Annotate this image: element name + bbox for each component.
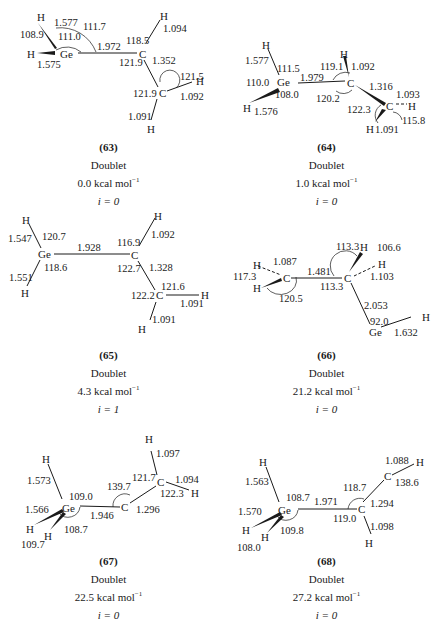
bond-length-label: 1.097	[156, 448, 180, 459]
atom-label: C	[386, 100, 393, 112]
angle-label: 119.1	[320, 61, 343, 72]
bond-length-label: 1.091	[128, 111, 152, 122]
angle-label: 108.9	[20, 29, 44, 40]
atom-label: H	[37, 11, 45, 23]
bond-length-label: 1.091	[375, 124, 399, 135]
angle-label: 120.7	[42, 231, 66, 242]
atom-label: Ge	[277, 76, 290, 88]
angle-label: 111.7	[83, 21, 106, 32]
bond-length-label: 1.092	[180, 91, 204, 102]
atom-label: H	[261, 531, 269, 543]
angle-label: 121.9	[119, 57, 143, 68]
imaginary-frequencies: i = 0	[0, 606, 217, 624]
atom-label: C	[344, 272, 351, 284]
angle-label: 121.9	[133, 88, 157, 99]
bond-length-label: 1.928	[77, 242, 101, 253]
atom-label: C	[121, 501, 128, 513]
angle-label: 122.7	[117, 263, 141, 274]
angle-label: 138.6	[395, 477, 419, 488]
atom-label: H	[422, 311, 430, 323]
bond-length-label: 1.088	[385, 455, 409, 466]
angle-label: 118.7	[343, 482, 366, 493]
atom-label: H	[365, 537, 373, 549]
atom-label: H	[360, 241, 368, 253]
atom-label: H	[262, 39, 270, 51]
bond-length-label: 1.566	[25, 504, 49, 515]
molecule-64-diagram: H Ge H H C C H H 1.577 1.576 1.979 1.092…	[218, 0, 435, 150]
bond-length-label: 1.091	[180, 298, 204, 309]
atom-label: H	[243, 102, 251, 114]
atom-label: H	[416, 456, 424, 468]
structure-64: H Ge H H C C H H 1.577 1.576 1.979 1.092…	[218, 0, 435, 205]
spin-state: Doublet	[0, 364, 217, 382]
atom-label: H	[366, 123, 374, 135]
atom-label: H	[147, 123, 155, 135]
bond-length-label: 1.551	[9, 272, 33, 283]
bond-length-label: 1.094	[175, 474, 199, 485]
atom-label: C	[159, 87, 166, 99]
bond-length-label: 1.316	[369, 81, 393, 92]
atom-label: H	[160, 10, 168, 22]
bond-length-label: 1.576	[254, 106, 278, 117]
atom-label: H	[21, 287, 29, 299]
atom-label: H	[253, 259, 261, 271]
structure-66-caption: (66) Doublet 21.2 kcal mol−1 i = 0	[218, 346, 435, 418]
molecule-66-diagram: H H C C H H Ge H 1.087 1.481 1.103 2.053…	[218, 208, 435, 358]
bond-length-label: 1.972	[97, 41, 121, 52]
structure-63: H H Ge C H C H H 1.577 1.575 1.972 1.094…	[0, 0, 217, 205]
structure-68: H Ge H H C H C H 1.563 1.570 1.971 1.294…	[218, 420, 435, 625]
angle-label: 116.9	[117, 237, 140, 248]
molecule-65-diagram: H Ge H C H C H H 1.547 1.551 1.928 1.092…	[0, 208, 217, 358]
atom-label: H	[408, 100, 416, 112]
atom-label: C	[358, 503, 365, 515]
atom-label: H	[378, 258, 386, 270]
angle-label: 121.5	[180, 71, 204, 82]
atom-label: C	[384, 470, 391, 482]
angle-label: 111.0	[58, 31, 81, 42]
bond-length-label: 1.328	[149, 262, 173, 273]
structure-65: H Ge H C H C H H 1.547 1.551 1.928 1.092…	[0, 208, 217, 413]
bond-length-label: 1.563	[245, 476, 269, 487]
structure-id: (68)	[218, 552, 435, 570]
bond-length-label: 1.971	[314, 496, 338, 507]
atom-label: Ge	[38, 248, 51, 260]
atom-label: H	[154, 210, 162, 222]
atom-label: H	[145, 433, 153, 445]
atom-label: H	[242, 524, 250, 536]
bond-length-label: 1.098	[370, 521, 394, 532]
bond-length-label: 1.577	[54, 17, 78, 28]
spin-state: Doublet	[218, 156, 435, 174]
relative-energy: 4.3 kcal mol−1	[0, 382, 217, 400]
bond-length-label: 1.575	[37, 59, 61, 70]
imaginary-frequencies: i = 0	[218, 606, 435, 624]
structure-id: (65)	[0, 346, 217, 364]
bond-length-label: 1.979	[300, 72, 324, 83]
angle-label: 113.3	[320, 281, 343, 292]
angle-label: 113.3	[336, 241, 359, 252]
bond-length-label: 1.103	[370, 271, 394, 282]
bond-length-label: 1.570	[238, 506, 262, 517]
angle-label: 118.5	[126, 35, 149, 46]
angle-label: 120.5	[279, 293, 303, 304]
relative-energy: 27.2 kcal mol−1	[218, 588, 435, 606]
atom-label: H	[22, 214, 30, 226]
angle-label: 92.0	[370, 316, 388, 327]
angle-label: 115.8	[402, 115, 425, 126]
angle-label: 139.7	[107, 481, 131, 492]
angle-label: 109.0	[69, 491, 93, 502]
atom-label: Ge	[60, 48, 73, 60]
angle-label: 108.0	[275, 89, 299, 100]
atom-label: C	[347, 77, 354, 89]
atom-label: H	[26, 523, 34, 535]
imaginary-frequencies: i = 1	[0, 400, 217, 418]
structure-id: (64)	[218, 138, 435, 156]
structure-65-caption: (65) Doublet 4.3 kcal mol−1 i = 1	[0, 346, 217, 418]
angle-label: 118.6	[44, 262, 67, 273]
angle-label: 109.7	[21, 539, 45, 550]
structure-63-caption: (63) Doublet 0.0 kcal mol−1 i = 0	[0, 138, 217, 210]
structure-id: (63)	[0, 138, 217, 156]
structure-67: H Ge H H C C H H 1.573 1.566 1.946 1.296…	[0, 420, 217, 625]
atom-label: H	[253, 282, 261, 294]
atom-label: C	[131, 249, 138, 261]
angle-label: 117.3	[233, 271, 256, 282]
